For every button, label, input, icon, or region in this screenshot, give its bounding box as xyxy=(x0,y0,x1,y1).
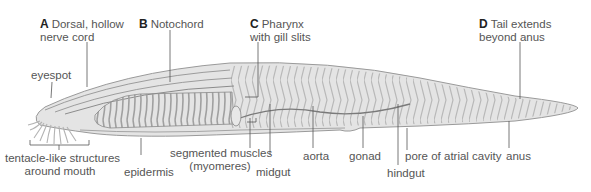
label-midgut: midgut xyxy=(256,166,291,179)
label-epidermis: epidermis xyxy=(124,166,174,179)
label-pharynx: CPharynx with gill slits xyxy=(250,18,311,44)
label-anus: anus xyxy=(506,150,531,163)
label-eyespot: eyespot xyxy=(31,69,71,82)
label-segmented-muscles: segmented muscles (myomeres) xyxy=(170,147,270,173)
label-notochord: BNotochord xyxy=(139,18,204,31)
label-tentacles: tentacle-like structures around mouth xyxy=(5,152,115,178)
label-dorsal-nerve-cord: ADorsal, hollow nerve cord xyxy=(40,18,124,44)
label-gonad: gonad xyxy=(349,150,381,163)
label-aorta: aorta xyxy=(303,150,329,163)
label-tail: DTail extends beyond anus xyxy=(479,18,551,44)
label-pore-atrial-cavity: pore of atrial cavity xyxy=(405,150,502,163)
label-hindgut: hindgut xyxy=(387,167,425,180)
